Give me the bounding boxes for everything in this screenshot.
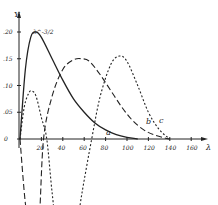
curve-c bbox=[20, 56, 170, 205]
y-tick-label: .05 bbox=[3, 108, 13, 115]
curve-label-b: b bbox=[146, 117, 151, 126]
x-tick-label: 100 bbox=[122, 144, 134, 151]
y-tick-label: .10 bbox=[3, 82, 13, 89]
curve-b bbox=[20, 58, 170, 205]
x-tick-label: 140 bbox=[165, 144, 177, 151]
x-axis-arrow-icon bbox=[201, 137, 208, 141]
y-ticks: 0.05.10.15.20 bbox=[3, 28, 21, 142]
curve-a bbox=[20, 32, 138, 139]
y-tick-label: 0 bbox=[4, 135, 8, 142]
x-axis-label: λ bbox=[205, 143, 211, 152]
x-tick-label: 60 bbox=[79, 144, 87, 151]
chart-svg: 20406080100120140160 0.05.10.15.20 Y λ^-… bbox=[0, 0, 218, 205]
curve-label-a: a bbox=[106, 128, 111, 137]
x-tick-label: 80 bbox=[101, 144, 109, 151]
x-tick-label: 120 bbox=[143, 144, 155, 151]
y-unit-label: λ^-3/2 bbox=[32, 28, 54, 35]
x-tick-label: 40 bbox=[57, 144, 66, 151]
y-tick-label: .15 bbox=[3, 55, 13, 62]
curve-label-c: c bbox=[159, 116, 164, 125]
x-tick-label: 160 bbox=[186, 144, 198, 151]
y-tick-label: .20 bbox=[3, 28, 13, 35]
y-axis-label: Y bbox=[14, 10, 20, 19]
chart: 20406080100120140160 0.05.10.15.20 Y λ^-… bbox=[0, 0, 218, 205]
